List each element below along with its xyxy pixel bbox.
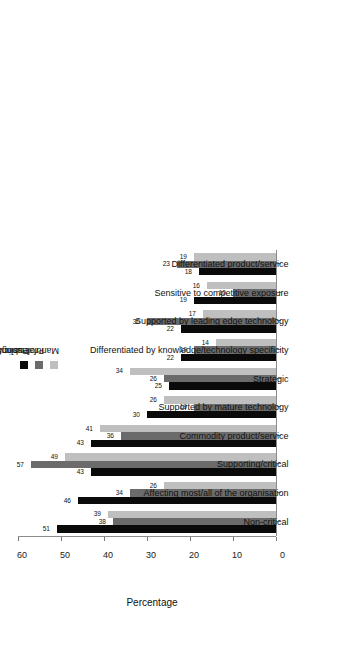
bar-value-label: 22 [167, 354, 174, 361]
bar[interactable]: 18 [199, 268, 276, 275]
bar[interactable]: 22 [181, 354, 276, 361]
value-tick-mark [233, 537, 234, 541]
category-label: Differentiated by knowledge/technology s… [89, 346, 289, 355]
category-label: Differentiated product/service [89, 260, 289, 269]
value-tick-label: 10 [222, 550, 242, 560]
bar[interactable]: 25 [169, 382, 277, 389]
value-tick-label: 50 [50, 550, 70, 560]
chart-legend: Public ServicesProfessional ServicesManu… [18, 346, 63, 369]
bar[interactable]: 46 [78, 497, 276, 504]
category-label: Sensitive to competitive exposure [89, 288, 289, 297]
value-tick-mark [190, 537, 191, 541]
bar[interactable]: 43 [91, 468, 276, 475]
bar-slot: 19 [18, 297, 276, 304]
bar-slot: 25 [18, 382, 276, 389]
value-tick-mark [104, 537, 105, 541]
bar-value-label: 51 [42, 526, 49, 533]
bar-value-label: 49 [51, 454, 58, 461]
category-label: Supported by mature technology [89, 403, 289, 412]
chart-canvas: 0102030405060 51383946342643574943364130… [0, 0, 351, 669]
value-tick-mark [147, 537, 148, 541]
value-tick-label: 30 [136, 550, 156, 560]
bar-slot: 18 [18, 268, 276, 275]
value-tick-mark [276, 537, 277, 541]
bar[interactable]: 19 [194, 297, 276, 304]
bar-value-label: 57 [17, 461, 24, 468]
category-label: Supported by leading edge technology [89, 317, 289, 326]
legend-label-holder: Manufacturing/Engineering/Construction [49, 346, 59, 356]
value-axis-title: Percentage [126, 598, 177, 608]
bar[interactable]: 30 [147, 411, 276, 418]
category-label: Strategic [89, 374, 289, 383]
bar-slot: 43 [18, 468, 276, 475]
bar-value-label: 19 [180, 297, 187, 304]
bar-slot: 51 [18, 525, 276, 532]
value-tick-label: 20 [179, 550, 199, 560]
value-tick-label: 60 [7, 550, 27, 560]
legend-item[interactable]: Manufacturing/Engineering/Construction [48, 346, 60, 369]
category-label: Supporting/critical [89, 460, 289, 469]
bar-slot: 43 [18, 440, 276, 447]
bar[interactable]: 43 [91, 440, 276, 447]
bar-value-label: 43 [77, 440, 84, 447]
value-tick-label: 0 [265, 550, 285, 560]
legend-label: Manufacturing/Engineering/Construction [0, 346, 59, 356]
bar-value-label: 18 [184, 269, 191, 276]
bar-value-label: 25 [154, 383, 161, 390]
category-label: Non-critical [89, 517, 289, 526]
bar-value-label: 43 [77, 469, 84, 476]
bar-slot: 22 [18, 325, 276, 332]
rotated-chart-wrapper: 0102030405060 51383946342643574943364130… [0, 0, 351, 669]
bar[interactable]: 51 [57, 525, 276, 532]
category-label: Commodity product/service [89, 431, 289, 440]
legend-swatch [50, 361, 58, 369]
bar[interactable]: 22 [181, 325, 276, 332]
bar-value-label: 30 [133, 412, 140, 419]
category-label: Affecting most/all of the organisation [89, 489, 289, 498]
legend-swatch [35, 361, 43, 369]
value-tick-mark [61, 537, 62, 541]
bar-value-label: 22 [167, 326, 174, 333]
value-tick-label: 40 [93, 550, 113, 560]
legend-swatch [20, 361, 28, 369]
bar-value-label: 46 [64, 497, 71, 504]
value-tick-mark [18, 537, 19, 541]
bar-slot: 46 [18, 497, 276, 504]
bar-slot: 30 [18, 411, 276, 418]
